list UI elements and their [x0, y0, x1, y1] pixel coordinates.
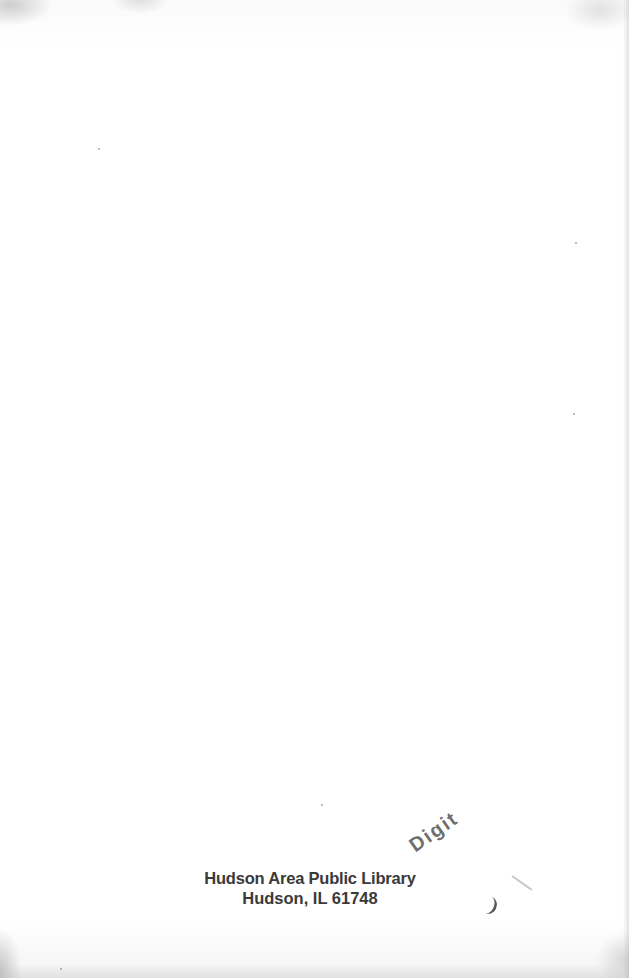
- paper-speck: [575, 242, 577, 244]
- paper-speck: [573, 413, 575, 415]
- scanned-page: Digit Hudson Area Public Library Hudson,…: [0, 0, 629, 978]
- paper-speck: [98, 148, 100, 150]
- library-name: Hudson Area Public Library: [198, 868, 422, 888]
- stray-pencil-mark: [512, 875, 533, 890]
- library-address: Hudson, IL 61748: [198, 888, 422, 908]
- paper-speck: [321, 804, 323, 806]
- digitized-overstamp: Digit: [405, 807, 463, 857]
- library-stamp: Hudson Area Public Library Hudson, IL 61…: [198, 868, 422, 908]
- overstamp-text: Digit: [405, 807, 462, 856]
- paper-speck: [60, 968, 62, 970]
- page-edge-shadow-bottom: [0, 964, 629, 978]
- page-edge-shadow-right: [623, 0, 629, 978]
- stamp-ink-mark: [477, 894, 499, 917]
